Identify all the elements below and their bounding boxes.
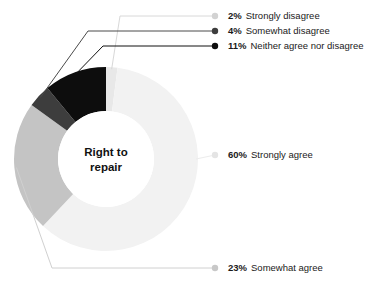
center-label-line-1: Right to — [84, 146, 127, 158]
slice-label-strongly-disagree: 2%Strongly disagree — [228, 10, 320, 21]
slice-percent-somewhat-disagree: 4% — [228, 25, 242, 36]
slice-label-somewhat-agree: 23%Somewhat agree — [228, 262, 323, 273]
donut-center-hole — [58, 111, 154, 207]
callout-labels-group: 2%Strongly disagree4%Somewhat disagree11… — [228, 10, 364, 273]
slice-percent-somewhat-agree: 23% — [228, 262, 248, 273]
donut-chart: 2%Strongly disagree4%Somewhat disagree11… — [0, 0, 392, 286]
slice-percent-strongly-disagree: 2% — [228, 10, 242, 21]
leader-dot-somewhat-agree — [212, 265, 218, 271]
slice-label-strongly-agree: 60%Strongly agree — [228, 149, 313, 160]
slice-name-somewhat-agree: Somewhat agree — [251, 262, 323, 273]
slice-name-strongly-agree: Strongly agree — [251, 149, 313, 160]
leader-dot-strongly-disagree — [212, 13, 218, 19]
slice-percent-strongly-agree: 60% — [228, 149, 248, 160]
leader-dot-neither-agree-nor-disagree — [212, 43, 218, 49]
leader-dot-somewhat-disagree — [212, 28, 218, 34]
slice-label-somewhat-disagree: 4%Somewhat disagree — [228, 25, 330, 36]
slice-name-neither-agree-nor-disagree: Neither agree nor disagree — [251, 40, 364, 51]
leader-dot-strongly-agree — [212, 152, 218, 158]
slice-percent-neither-agree-nor-disagree: 11% — [228, 40, 247, 51]
leader-dots-group — [212, 13, 218, 271]
donut-chart-svg: 2%Strongly disagree4%Somewhat disagree11… — [0, 0, 392, 286]
slice-label-neither-agree-nor-disagree: 11%Neither agree nor disagree — [228, 40, 364, 51]
leader-line-strongly-disagree — [112, 16, 215, 69]
slice-name-strongly-disagree: Strongly disagree — [246, 10, 320, 21]
center-label-line-2: repair — [90, 161, 122, 173]
slice-name-somewhat-disagree: Somewhat disagree — [246, 25, 330, 36]
